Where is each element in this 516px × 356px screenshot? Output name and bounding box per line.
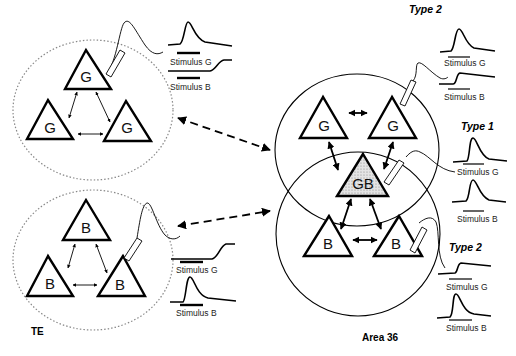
- electrode-wire: [413, 63, 448, 81]
- neuron-label: G: [80, 68, 92, 85]
- neuron-label: B: [81, 219, 91, 236]
- neuron-label: B: [323, 235, 333, 252]
- neuron-label: G: [44, 119, 56, 136]
- te-b-cluster: B B B Stimulus G Stimulus B: [13, 190, 236, 330]
- area36-bottom-recording: Type 2 Stimulus G Stimulus B: [437, 241, 491, 333]
- stimulus-g-label: Stimulus G: [446, 282, 488, 292]
- neuron-label: G: [387, 117, 399, 134]
- stimulus-g-label: Stimulus G: [170, 57, 212, 67]
- response-trace-stim-b: [439, 73, 495, 84]
- connection-arrow: [96, 92, 110, 122]
- stimulus-g-label: Stimulus G: [176, 265, 218, 275]
- connection-arrow: [384, 142, 393, 169]
- connection-arrow: [68, 244, 75, 268]
- connection-arrow: [341, 199, 351, 229]
- stimulus-g-label: Stimulus G: [457, 167, 499, 177]
- diagram-svg: G G G Stimulus G Stimulus B B B B: [0, 0, 516, 356]
- neuron-label: GB: [352, 175, 374, 192]
- response-trace-stim-g: [171, 244, 235, 259]
- te-b-to-area36-projection: [178, 211, 270, 226]
- neuron-label: G: [318, 117, 330, 134]
- stimulus-b-label: Stimulus B: [176, 308, 217, 318]
- neuron-label: G: [121, 119, 133, 136]
- type-label: Type 1: [461, 120, 494, 132]
- te-g-cluster: G G G Stimulus G Stimulus B: [13, 21, 232, 180]
- response-trace-stim-g: [168, 22, 232, 46]
- stimulus-b-label: Stimulus B: [446, 323, 487, 333]
- response-trace-stim-g: [453, 138, 507, 162]
- connection-arrow: [96, 244, 107, 273]
- te-g-to-area36-projection: [178, 118, 270, 150]
- area36-top-recording: Type 2 Stimulus G Stimulus B: [409, 3, 495, 102]
- response-trace-stim-g: [440, 29, 495, 52]
- response-trace-stim-g: [438, 263, 491, 274]
- electrode-wire: [137, 203, 180, 239]
- response-trace-stim-b: [452, 180, 506, 202]
- area36-cluster: G G GB B B: [275, 63, 455, 316]
- electrode-icon: [124, 238, 142, 261]
- neuron-label: B: [45, 275, 55, 292]
- electrode-wire: [406, 151, 455, 172]
- neuron-label: B: [391, 235, 401, 252]
- region-label-te: TE: [31, 326, 44, 337]
- neuron-label: B: [115, 276, 125, 293]
- stimulus-b-label: Stimulus B: [444, 92, 485, 102]
- electrode-icon: [384, 160, 404, 185]
- connection-arrow: [329, 142, 338, 170]
- type-label: Type 2: [409, 3, 442, 15]
- stimulus-b-label: Stimulus B: [170, 82, 211, 92]
- response-trace-stim-b: [170, 277, 236, 302]
- type-label: Type 2: [449, 241, 482, 253]
- electrode-icon: [400, 80, 416, 106]
- region-label-area36: Area 36: [362, 332, 399, 343]
- connection-arrow: [69, 92, 77, 118]
- stimulus-g-label: Stimulus G: [444, 58, 486, 68]
- response-trace-stim-b: [437, 294, 491, 318]
- area36-g-column: [275, 74, 439, 226]
- electrode-wire: [419, 218, 445, 268]
- area36-middle-recording: Type 1 Stimulus G Stimulus B: [452, 120, 507, 224]
- stimulus-b-label: Stimulus B: [457, 214, 498, 224]
- diagram-canvas: G G G Stimulus G Stimulus B B B B: [0, 0, 516, 356]
